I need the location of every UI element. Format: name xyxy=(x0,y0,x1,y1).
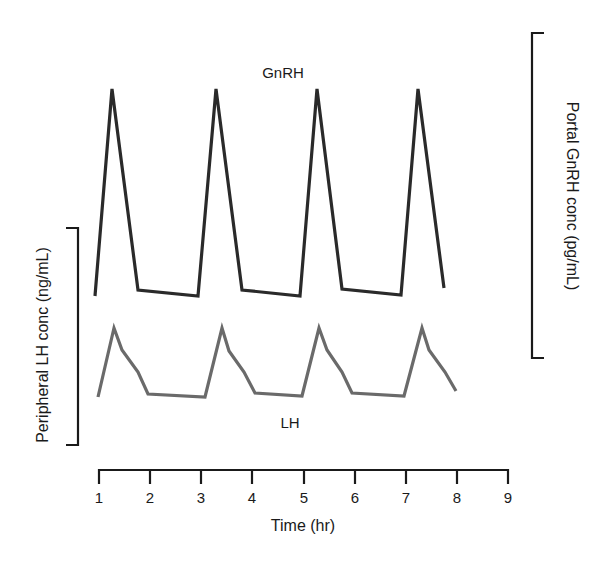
gnrh-series-line xyxy=(95,89,444,296)
right-y-axis-bracket xyxy=(532,33,544,358)
gnrh-series-label: GnRH xyxy=(262,64,304,81)
chart-canvas: GnRH LH Peripheral LH conc (ng/mL) Porta… xyxy=(0,0,611,562)
lh-series-line xyxy=(98,328,456,397)
x-axis-title: Time (hr) xyxy=(271,517,335,534)
x-axis-tick-labels: 1 2 3 4 5 6 7 8 9 xyxy=(95,489,512,506)
x-tick-label: 2 xyxy=(146,489,154,506)
x-tick-label: 3 xyxy=(197,489,205,506)
left-y-axis-title: Peripheral LH conc (ng/mL) xyxy=(34,247,51,443)
x-tick-label: 5 xyxy=(300,489,308,506)
lh-series-label: LH xyxy=(280,414,299,431)
x-tick-label: 9 xyxy=(504,489,512,506)
right-y-axis-title: Portal GnRH conc (pg/mL) xyxy=(564,102,581,291)
x-tick-label: 1 xyxy=(95,489,103,506)
left-y-axis-bracket xyxy=(66,228,78,445)
x-tick-label: 6 xyxy=(351,489,359,506)
x-tick-label: 7 xyxy=(402,489,410,506)
x-axis xyxy=(98,469,509,484)
x-tick-label: 4 xyxy=(248,489,256,506)
x-tick-label: 8 xyxy=(453,489,461,506)
